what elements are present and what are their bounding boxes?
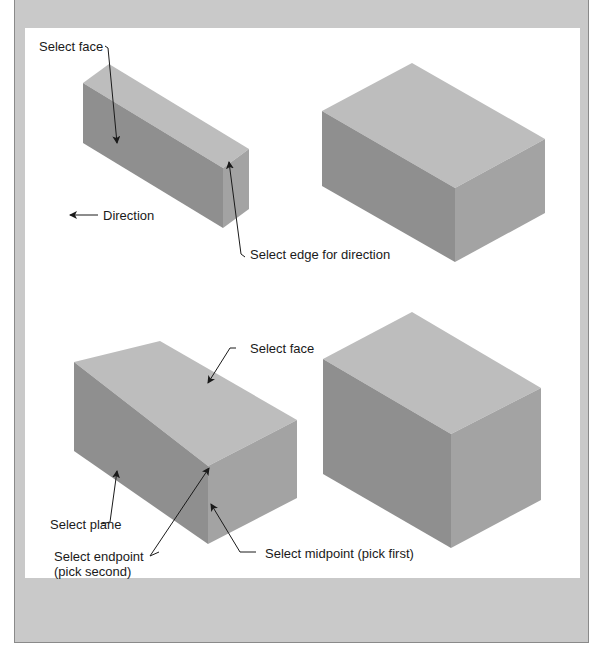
label-pick-second: (pick second) [54, 564, 131, 579]
label-select-endpoint: Select endpoint [54, 549, 144, 564]
label-direction: Direction [103, 208, 154, 223]
box-bottom-right [323, 312, 541, 548]
label-select-face-bottom: Select face [250, 341, 314, 356]
box-bottom-left [74, 341, 297, 544]
label-select-plane: Select plane [50, 517, 122, 532]
label-select-midpoint: Select midpoint (pick first) [265, 546, 414, 561]
label-select-face-top: Select face [39, 39, 103, 54]
label-select-edge: Select edge for direction [250, 247, 390, 262]
box-top-left [83, 64, 249, 228]
box-top-right [322, 63, 545, 262]
